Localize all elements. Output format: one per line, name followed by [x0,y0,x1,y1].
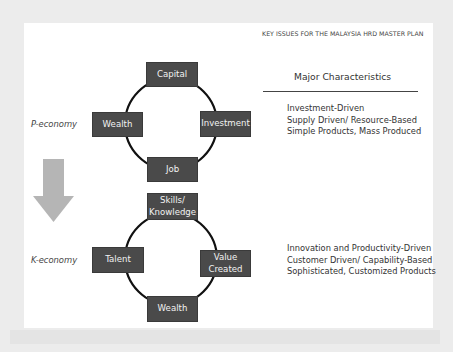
k-characteristic-item: Customer Driven/ Capability-Based [287,255,436,267]
p-characteristic-item: Investment-Driven [287,103,421,115]
k-node-talent: Talent [92,247,144,273]
k-node-wealth: Wealth [147,296,198,322]
p-economy-characteristics: Investment-Driven Supply Driven/ Resourc… [287,103,421,138]
p-node-capital-label: Capital [157,69,187,81]
k-characteristic-item: Sophisticated, Customized Products [287,266,436,278]
k-node-skills-label-line1: Skills/ [160,195,185,207]
k-characteristic-item: Innovation and Productivity-Driven [287,243,436,255]
p-node-capital: Capital [146,62,198,87]
k-node-skills-knowledge: Skills/ Knowledge [147,193,198,220]
k-node-talent-label: Talent [105,254,131,266]
k-node-wealth-label: Wealth [158,303,188,315]
k-economy-characteristics: Innovation and Productivity-Driven Custo… [287,243,436,278]
p-node-job-label: Job [166,164,179,176]
characteristics-divider [263,91,418,92]
p-node-investment: Investment [200,111,251,137]
p-node-wealth: Wealth [92,112,143,137]
cycle-lines [0,0,453,352]
characteristics-heading: Major Characteristics [294,71,391,82]
k-economy-label: K-economy [31,255,77,265]
p-economy-label: P-economy [31,119,77,129]
down-arrow-icon [33,159,74,222]
p-characteristic-item: Simple Products, Mass Produced [287,126,421,138]
k-node-value-label-line2: Created [208,264,242,276]
k-node-value-label-line1: Value [214,252,238,264]
p-node-investment-label: Investment [201,118,250,130]
k-node-skills-label-line2: Knowledge [149,207,196,219]
p-node-wealth-label: Wealth [103,119,133,131]
p-node-job: Job [147,157,198,182]
p-characteristic-item: Supply Driven/ Resource-Based [287,115,421,127]
k-node-value-created: Value Created [200,250,251,277]
